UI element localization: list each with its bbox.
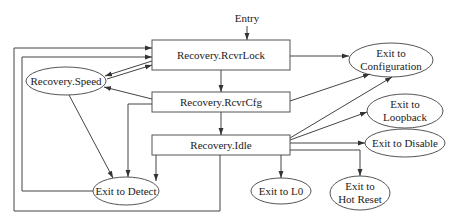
- edge-speed-rcvrlock: [107, 65, 152, 79]
- exit-configuration[interactable]: Exit to Configuration: [349, 43, 433, 77]
- state-idle-label: Recovery.Idle: [190, 139, 251, 151]
- state-speed-label: Recovery.Speed: [30, 75, 102, 87]
- edge-rcvrcfg-detect: [128, 104, 152, 177]
- state-rcvrcfg[interactable]: Recovery.RcvrCfg: [152, 92, 290, 112]
- edge-rcvrcfg-speed: [104, 87, 152, 99]
- exit-hotreset-line2: Hot Reset: [338, 193, 382, 205]
- edge-speed-detect: [69, 95, 113, 178]
- exit-l0-label: Exit to L0: [259, 185, 304, 197]
- exit-loopback-line2: Loopback: [383, 111, 427, 123]
- state-rcvrcfg-label: Recovery.RcvrCfg: [180, 96, 263, 108]
- state-diagram: Entry Recovery.RcvrLock Recovery.RcvrCfg…: [0, 0, 454, 224]
- exit-hotreset-line1: Exit to: [345, 180, 375, 192]
- exit-detect-label: Exit to Detect: [95, 185, 156, 197]
- state-idle[interactable]: Recovery.Idle: [152, 135, 290, 155]
- exit-loopback-line1: Exit to: [390, 98, 420, 110]
- edge-rcvrlock-speed: [105, 61, 152, 76]
- edge-idle-hotreset: [290, 150, 360, 176]
- entry-label: Entry: [235, 12, 260, 24]
- state-rcvrlock-label: Recovery.RcvrLock: [177, 49, 266, 61]
- edge-idle-loopback: [290, 112, 367, 140]
- exit-disable[interactable]: Exit to Disable: [365, 129, 445, 157]
- state-rcvrlock[interactable]: Recovery.RcvrLock: [152, 40, 290, 70]
- exit-detect[interactable]: Exit to Detect: [93, 177, 159, 205]
- exit-loopback[interactable]: Exit to Loopback: [367, 94, 443, 128]
- exit-hotreset[interactable]: Exit to Hot Reset: [330, 176, 390, 210]
- exit-disable-label: Exit to Disable: [372, 137, 438, 149]
- exit-l0[interactable]: Exit to L0: [251, 178, 311, 204]
- exit-config-line1: Exit to: [376, 47, 406, 59]
- state-speed[interactable]: Recovery.Speed: [26, 67, 106, 95]
- exit-config-line2: Configuration: [360, 60, 422, 72]
